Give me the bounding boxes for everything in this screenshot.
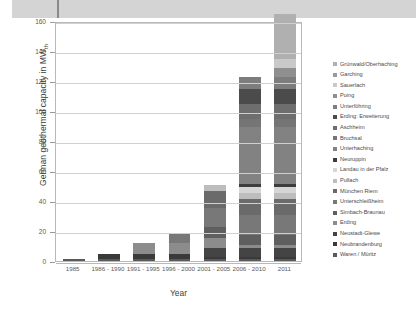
gridline	[56, 233, 301, 234]
x-axis-tick-label: 1991 - 1995	[126, 265, 161, 272]
x-axis-tick-label: 2001 - 2005	[196, 265, 231, 272]
gridline	[56, 23, 301, 24]
bar-stack	[98, 254, 120, 262]
bar-segment	[239, 187, 261, 193]
legend-item-label: Sauerlach	[340, 83, 365, 89]
legend-item-label: Simbach-Braunau	[340, 210, 385, 216]
legend: Grünwald/OberhachingGarchingSauerlachPoi…	[333, 59, 416, 260]
bar-segment	[133, 243, 155, 254]
plot-area	[55, 22, 302, 262]
legend-item-label: Bruchsal	[340, 136, 362, 142]
legend-item-label: Garching	[340, 72, 363, 78]
bar-segment	[274, 89, 296, 104]
legend-swatch-icon	[333, 211, 337, 215]
gridline	[56, 53, 301, 54]
bar-segment	[239, 199, 261, 216]
bar-segment	[239, 259, 261, 261]
legend-item[interactable]: Neubrandenburg	[333, 239, 416, 250]
x-axis-tick-label: 1985	[55, 265, 90, 272]
bar-segment	[98, 259, 120, 261]
legend-item[interactable]: München Riem	[333, 186, 416, 197]
bar-stack	[204, 185, 226, 261]
bar-segment	[274, 257, 296, 259]
legend-item[interactable]: Garching	[333, 70, 416, 81]
bar-segment	[169, 243, 191, 254]
legend-swatch-icon	[333, 126, 337, 130]
bar-segment	[239, 245, 261, 248]
legend-item-label: Neubrandenburg	[340, 242, 382, 248]
legend-item[interactable]: Sauerlach	[333, 80, 416, 91]
bar-segment	[274, 245, 296, 248]
bar-segment	[274, 184, 296, 187]
legend-item-label: Aschheim	[340, 125, 365, 131]
legend-item[interactable]: Unterschleißheim	[333, 197, 416, 208]
legend-item[interactable]: Aschheim	[333, 123, 416, 134]
gridline	[56, 83, 301, 84]
legend-item[interactable]: Bruchsal	[333, 133, 416, 144]
bar-segment	[204, 238, 226, 249]
x-axis-tick-label: 2011	[267, 265, 302, 272]
legend-swatch-icon	[333, 136, 337, 140]
bar-segment	[274, 248, 296, 257]
bar-segment	[274, 127, 296, 184]
gridline	[56, 263, 301, 264]
bar-segment	[98, 254, 120, 259]
bar-segment	[169, 259, 191, 261]
legend-item[interactable]: Pullach	[333, 176, 416, 187]
legend-item-label: Pullach	[340, 178, 358, 184]
bar-segment	[274, 199, 296, 216]
bar-segment	[239, 127, 261, 184]
legend-item-label: Poing	[340, 93, 354, 99]
legend-swatch-icon	[333, 179, 337, 183]
bar-segment	[133, 254, 155, 259]
bar-segment	[204, 208, 226, 228]
legend-item-label: Erding	[340, 220, 356, 226]
x-axis-tick-label: 2006 - 2010	[231, 265, 266, 272]
y-axis-title: German geothermal capacity in MWth	[38, 15, 48, 215]
legend-item[interactable]: Neuruppin	[333, 154, 416, 165]
legend-swatch-icon	[333, 221, 337, 225]
legend-item-label: München Riem	[340, 189, 378, 195]
bar-segment	[169, 254, 191, 259]
legend-item[interactable]: Waren / Müritz	[333, 250, 416, 261]
bar-segment	[274, 68, 296, 77]
bar-segment	[239, 257, 261, 259]
bar-segment	[204, 185, 226, 191]
legend-item[interactable]: Erding	[333, 218, 416, 229]
legend-item-label: Erding: Erweiterung	[340, 114, 389, 120]
legend-item[interactable]: Landau in der Pfalz	[333, 165, 416, 176]
bar-segment	[239, 184, 261, 187]
bar-segment	[274, 235, 296, 246]
legend-swatch-icon	[333, 200, 337, 204]
legend-swatch-icon	[333, 242, 337, 246]
legend-swatch-icon	[333, 105, 337, 109]
legend-item[interactable]: Unterhaching	[333, 144, 416, 155]
bar-segment	[239, 193, 261, 199]
legend-swatch-icon	[333, 83, 337, 87]
bar-segment	[274, 259, 296, 261]
gridline	[56, 143, 301, 144]
legend-item[interactable]: Grünwald/Oberhaching	[333, 59, 416, 70]
y-axis-title-subscript: th	[43, 44, 49, 49]
legend-swatch-icon	[333, 232, 337, 236]
legend-item[interactable]: Unterföhring	[333, 101, 416, 112]
legend-item[interactable]: Simbach-Braunau	[333, 207, 416, 218]
legend-item[interactable]: Poing	[333, 91, 416, 102]
bar-segment	[204, 257, 226, 259]
bar-segment	[204, 248, 226, 257]
gridline	[56, 113, 301, 114]
legend-item[interactable]: Erding: Erweiterung	[333, 112, 416, 123]
legend-swatch-icon	[333, 253, 337, 257]
legend-swatch-icon	[333, 189, 337, 193]
bar-segment	[204, 259, 226, 261]
legend-swatch-icon	[333, 62, 337, 66]
legend-item[interactable]: Neustadt-Glewe	[333, 229, 416, 240]
bar-segment	[133, 259, 155, 261]
bar-stack	[63, 259, 85, 261]
legend-swatch-icon	[333, 147, 337, 151]
bar-segment	[239, 119, 261, 127]
legend-swatch-icon	[333, 94, 337, 98]
bar-segment	[239, 248, 261, 257]
bar-segment	[204, 191, 226, 208]
bar-segment	[63, 259, 85, 261]
